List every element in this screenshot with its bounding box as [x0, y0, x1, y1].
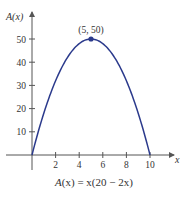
y-axis-label: A(x)	[5, 11, 24, 23]
x-tick-label: 2	[53, 160, 58, 170]
area-function-chart: A(x) x 246810 1020304050 (5, 50)	[0, 0, 188, 176]
y-tick-label: 40	[17, 58, 27, 68]
x-tick-label: 4	[77, 160, 82, 170]
x-axis-label: x	[174, 154, 180, 165]
caption-expression: (x) = x(20 − 2x)	[62, 176, 133, 188]
area-curve	[32, 39, 150, 155]
vertex-point-label: (5, 50)	[78, 25, 103, 36]
x-tick-label: 6	[100, 160, 105, 170]
y-tick-label: 10	[17, 127, 27, 137]
x-tick-label: 10	[145, 160, 155, 170]
function-caption: A(x) = x(20 − 2x)	[0, 176, 188, 188]
vertex-point-marker	[88, 36, 93, 41]
y-tick-label: 50	[17, 35, 27, 45]
caption-function-name: A	[55, 176, 62, 188]
y-tick-label: 30	[17, 81, 27, 91]
x-tick-label: 8	[124, 160, 129, 170]
y-tick-label: 20	[17, 104, 27, 114]
